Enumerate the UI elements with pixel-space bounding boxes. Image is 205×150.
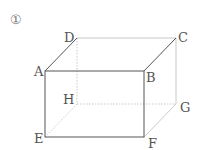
figure-number: ① xyxy=(10,12,22,27)
vertex-label-C: C xyxy=(178,30,188,45)
vertex-label-F: F xyxy=(148,136,157,150)
edge-BC xyxy=(144,38,176,71)
vertex-label-B: B xyxy=(146,70,156,85)
vertex-label-D: D xyxy=(64,30,74,45)
vertex-label-H: H xyxy=(63,92,74,107)
vertex-label-G: G xyxy=(180,100,190,115)
edge-GF xyxy=(144,104,176,137)
vertex-label-E: E xyxy=(34,131,44,146)
vertex-label-A: A xyxy=(33,64,44,79)
edge-HE xyxy=(45,104,77,137)
prism-diagram: ① A B C D E F G H xyxy=(0,0,205,150)
